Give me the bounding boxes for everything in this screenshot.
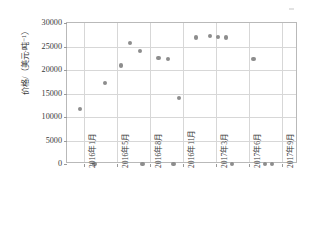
data-point — [208, 34, 212, 38]
x-gridline — [150, 23, 151, 162]
y-tick-mark — [64, 47, 67, 48]
data-point — [194, 35, 198, 39]
x-tick-label: 2016年1月 — [86, 133, 97, 168]
y-axis-tick-labels: 050001000015000200002500030000 — [20, 0, 62, 232]
data-point — [156, 56, 160, 60]
data-point — [103, 81, 107, 85]
x-tick-mark — [216, 164, 217, 167]
y-tick-label: 15000 — [42, 88, 62, 97]
y-tick-label: 10000 — [42, 112, 62, 121]
stray-speck — [289, 8, 294, 10]
x-gridline — [249, 23, 250, 162]
x-gridline — [183, 23, 184, 162]
x-tick-mark — [117, 164, 118, 167]
y-tick-label: 0 — [58, 159, 62, 168]
data-point — [128, 41, 132, 45]
x-tick-mark — [84, 164, 85, 167]
y-gridline — [67, 94, 296, 95]
y-gridline — [67, 47, 296, 48]
y-tick-mark — [64, 117, 67, 118]
y-tick-mark — [64, 70, 67, 71]
x-tick-label: 2016年5月 — [119, 133, 130, 168]
y-tick-mark — [64, 94, 67, 95]
x-tick-label: 2017年3月 — [218, 133, 229, 168]
x-tick-label: 2016年11月 — [185, 130, 196, 169]
y-tick-mark — [64, 23, 67, 24]
y-tick-mark — [64, 141, 67, 142]
x-tick-label: 2016年8月 — [152, 133, 163, 168]
data-point — [177, 96, 181, 100]
data-point — [216, 35, 220, 39]
y-tick-label: 20000 — [42, 65, 62, 74]
data-point — [270, 162, 274, 166]
data-point — [78, 107, 82, 111]
x-tick-mark — [183, 164, 184, 167]
data-point — [140, 162, 144, 166]
x-gridline — [216, 23, 217, 162]
x-gridline — [84, 23, 85, 162]
x-tick-mark — [249, 164, 250, 167]
data-point — [171, 162, 175, 166]
x-gridline — [282, 23, 283, 162]
x-gridline — [117, 23, 118, 162]
data-point — [224, 35, 228, 39]
y-tick-mark — [64, 164, 67, 165]
y-gridline — [67, 70, 296, 71]
data-point — [138, 49, 142, 53]
data-point — [263, 162, 267, 166]
scatter-chart: 价格/（美元·吨⁻¹） 0500010000150002000025000300… — [0, 0, 312, 232]
plot-area — [66, 22, 297, 163]
x-tick-label: 2017年6月 — [251, 133, 262, 168]
y-gridline — [67, 117, 296, 118]
data-point — [230, 162, 234, 166]
x-tick-label: 2017年9月 — [284, 133, 295, 168]
y-tick-label: 25000 — [42, 41, 62, 50]
y-tick-label: 30000 — [42, 18, 62, 27]
data-point — [119, 63, 123, 67]
x-tick-mark — [150, 164, 151, 167]
data-point — [251, 57, 255, 61]
y-tick-label: 5000 — [46, 135, 62, 144]
data-point — [166, 57, 170, 61]
x-tick-mark — [282, 164, 283, 167]
